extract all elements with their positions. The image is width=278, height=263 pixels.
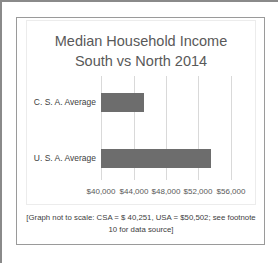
chart-footnote: [Graph not to scale: CSA = $ 40,251, USA…: [22, 212, 260, 236]
bar-usa-average: [101, 149, 211, 168]
outer-border-left: [0, 0, 2, 263]
chart-title: Median Household Income South vs North 2…: [26, 31, 256, 71]
category-label-usa: U. S. A. Average: [0, 153, 96, 163]
outer-border-top: [0, 0, 278, 2]
chart-title-line2: South vs North 2014: [26, 51, 256, 71]
bar-csa-average: [101, 93, 144, 112]
category-label-csa: C. S. A. Average: [0, 97, 96, 107]
chart-title-line1: Median Household Income: [26, 31, 256, 51]
x-tick-56000: $56,000: [211, 187, 251, 196]
gridline-56000: [231, 76, 232, 180]
